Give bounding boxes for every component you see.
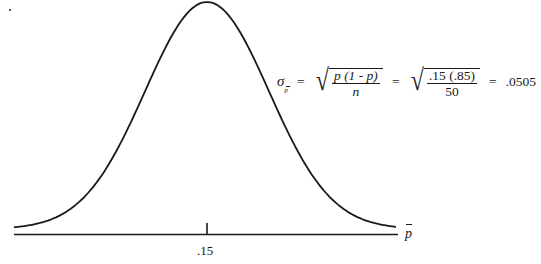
general-sqrt: √ p (1 - p) n <box>314 65 383 99</box>
numeric-denominator: 50 <box>445 84 459 99</box>
speck-dot <box>9 9 11 11</box>
mean-tick-label: .15 <box>197 243 213 259</box>
equals-sign: = <box>297 74 305 90</box>
numeric-fraction: .15 (.85) 50 <box>424 68 480 99</box>
radical-icon: √ <box>410 65 423 99</box>
axis-variable-label: p <box>405 226 412 242</box>
normal-curve-figure <box>0 0 541 264</box>
numeric-sqrt: √ .15 (.85) 50 <box>409 65 481 99</box>
standard-error-formula: σp = √ p (1 - p) n = √ .15 (.85) 50 = .0… <box>277 64 536 100</box>
general-fraction: p (1 - p) n <box>329 68 383 99</box>
general-numerator: p (1 - p) <box>332 69 380 84</box>
equals-sign: = <box>392 74 400 90</box>
normal-curve <box>14 2 396 227</box>
formula-result: .0505 <box>506 74 536 90</box>
general-denominator: n <box>353 84 360 99</box>
sigma-symbol: σp <box>277 73 288 92</box>
numeric-numerator: .15 (.85) <box>427 69 477 84</box>
radical-icon: √ <box>315 65 328 99</box>
equals-sign: = <box>489 74 497 90</box>
